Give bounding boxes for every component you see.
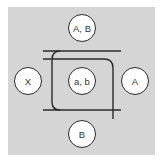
node-center: a, b — [68, 67, 96, 95]
node-right: A — [121, 67, 149, 95]
node-label: a, b — [74, 76, 90, 87]
node-label: X — [25, 76, 31, 87]
left-bracket-curve — [52, 51, 60, 110]
node-label: B — [79, 129, 85, 140]
node-bottom: B — [68, 120, 96, 148]
node-label: A, B — [73, 23, 91, 34]
node-top: A, B — [68, 14, 96, 42]
node-left: X — [14, 67, 42, 95]
node-label: A — [132, 76, 138, 87]
